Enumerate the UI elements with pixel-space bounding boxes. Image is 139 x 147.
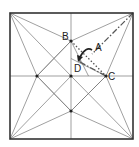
- crease-line: [10, 13, 37, 76]
- mountain-fold-line: [80, 62, 106, 76]
- crease-pattern-diagram: BADC: [0, 0, 139, 147]
- crease-line: [54, 94, 71, 111]
- vertex-dot: [69, 39, 72, 42]
- crease-line: [54, 41, 71, 58]
- label-c: C: [108, 71, 115, 82]
- crease-line: [71, 13, 133, 41]
- vertex-dot: [69, 74, 72, 77]
- crease-line: [37, 58, 54, 76]
- label-d: D: [74, 63, 81, 74]
- crease-line: [10, 13, 71, 76]
- crease-line: [106, 13, 133, 76]
- crease-line: [10, 76, 37, 139]
- crease-line: [71, 76, 133, 139]
- crease-line: [37, 76, 54, 94]
- vertex-dot: [69, 109, 72, 112]
- crease-line: [71, 111, 133, 139]
- vertex-dot: [35, 74, 38, 77]
- crease-line: [10, 111, 71, 139]
- label-b: B: [62, 31, 69, 42]
- crease-line: [71, 94, 88, 111]
- label-a: A: [95, 42, 102, 53]
- crease-line: [106, 76, 133, 139]
- crease-line: [88, 76, 106, 94]
- crease-line: [10, 76, 71, 139]
